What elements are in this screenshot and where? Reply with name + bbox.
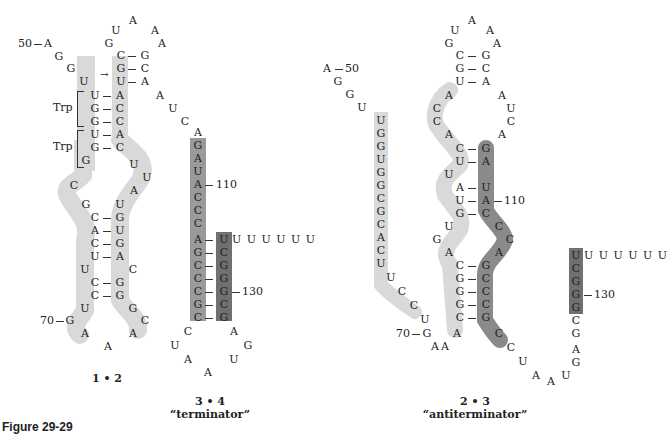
nucleotide: C [90, 290, 100, 302]
nucleotide: U [455, 76, 465, 88]
nucleotide: U [506, 103, 516, 115]
dash [205, 266, 213, 267]
nucleotide: G [193, 299, 203, 311]
figure-canvas: 50 A G G U U A A A G CG GC UA → UA GC GC… [0, 0, 670, 438]
dash [205, 292, 213, 293]
nucleotide: C [455, 143, 465, 155]
nucleotide: G [571, 289, 581, 301]
dash [412, 334, 420, 335]
nucleotide: A [322, 63, 332, 75]
nucleotide: A [90, 225, 100, 237]
nucleotide: G [115, 277, 125, 289]
arrow-icon: → [100, 69, 108, 81]
nucleotide: G [66, 63, 76, 75]
nucleotide: C [219, 247, 229, 259]
nucleotide: G [81, 155, 91, 167]
dash [468, 279, 476, 280]
dash [468, 201, 476, 202]
nucleotide: G [54, 51, 64, 63]
nucleotide: A [80, 328, 90, 340]
nucleotide: A [115, 251, 125, 263]
nucleotide: G [90, 116, 100, 128]
nucleotide: C [115, 142, 125, 154]
dash [468, 266, 476, 267]
nucleotide: U [80, 303, 90, 315]
nucleotide: G [90, 103, 100, 115]
position-label-50: 50 [345, 63, 359, 75]
nucleotide: A [571, 344, 581, 356]
nucleotide: A [444, 129, 454, 141]
nucleotide: C [397, 286, 407, 298]
nucleotide: A [193, 234, 203, 246]
nucleotide: C [376, 219, 386, 231]
dash [468, 188, 476, 189]
nucleotide: U [444, 169, 454, 181]
nucleotide: A [128, 15, 138, 27]
nucleotide: G [376, 167, 386, 179]
nucleotide: U [170, 340, 180, 352]
nucleotide: A [452, 328, 462, 340]
dash [205, 253, 213, 254]
dash [468, 162, 476, 163]
nucleotide: G [345, 89, 355, 101]
poly-u-tail: U U U U U U [232, 234, 316, 246]
structure-caption: 2 • 3 [440, 395, 510, 408]
nucleotide: C [481, 273, 491, 285]
structure-subcaption: “antiterminator” [415, 408, 535, 421]
nucleotide: C [481, 299, 491, 311]
nucleotide: U [90, 90, 100, 102]
dash [103, 283, 111, 284]
nucleotide: G [333, 76, 343, 88]
nucleotide: C [140, 63, 150, 75]
nucleotide: U [229, 354, 239, 366]
nucleotide: C [128, 264, 138, 276]
nucleotide: U [142, 172, 152, 184]
position-label-70: 70 [40, 315, 54, 327]
nucleotide: A [467, 15, 477, 27]
nucleotide: C [193, 218, 203, 230]
dash [205, 305, 213, 306]
nucleotide: G [65, 315, 75, 327]
dash [468, 214, 476, 215]
nucleotide: A [497, 129, 507, 141]
nucleotide: U [518, 356, 528, 368]
nucleotide: G [116, 63, 126, 75]
nucleotide: G [219, 273, 229, 285]
nucleotide: U [115, 199, 125, 211]
nucleotide: G [219, 286, 229, 298]
nucleotide: G [432, 234, 442, 246]
nucleotide: A [444, 247, 454, 259]
nucleotide: A [497, 90, 507, 102]
dash [56, 321, 64, 322]
nucleotide: C [183, 326, 193, 338]
nucleotide: A [531, 370, 541, 382]
nucleotide: C [455, 312, 465, 324]
nucleotide: U [481, 182, 491, 194]
nucleotide: G [455, 286, 465, 298]
structure-caption: 3 • 4 [180, 395, 240, 408]
dash [494, 201, 502, 202]
dash [205, 318, 213, 319]
nucleotide: G [104, 38, 114, 50]
nucleotide: G [140, 50, 150, 62]
nucleotide: A [494, 247, 504, 259]
nucleotide: U [571, 250, 581, 262]
dash [232, 292, 240, 293]
nucleotide: G [193, 140, 203, 152]
nucleotide: C [90, 238, 100, 250]
dash [468, 318, 476, 319]
nucleotide: A [193, 153, 203, 165]
nucleotide: C [116, 50, 126, 62]
dash [103, 148, 111, 149]
nucleotide: U [115, 225, 125, 237]
nucleotide: G [571, 328, 581, 340]
nucleotide: A [150, 25, 160, 37]
dash [128, 82, 136, 83]
nucleotide: A [155, 90, 165, 102]
dash [205, 279, 213, 280]
position-label-130: 130 [242, 286, 263, 298]
nucleotide: C [506, 342, 516, 354]
nucleotide: U [450, 25, 460, 37]
nucleotide: C [219, 299, 229, 311]
nucleotide: A [103, 341, 113, 353]
